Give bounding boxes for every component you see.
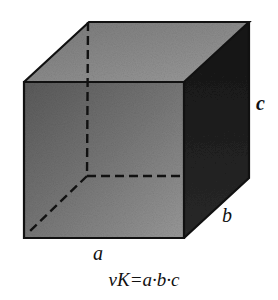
volume-formula: vK=a·b·c [0, 270, 278, 289]
cuboid-diagram: c b a vK=a·b·c [0, 0, 278, 300]
edge-label-c: c [256, 93, 265, 113]
cuboid-drawing [0, 0, 278, 300]
front-face [24, 82, 184, 238]
edge-label-b: b [222, 205, 232, 225]
edge-label-a: a [93, 243, 103, 263]
